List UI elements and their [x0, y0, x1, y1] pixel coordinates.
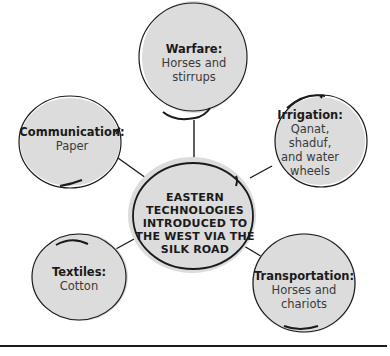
node-title: Communication:	[19, 125, 124, 139]
node-desc-line: wheels	[270, 164, 350, 178]
connector-irrigation	[250, 166, 272, 178]
node-communication: Communication: Paper	[19, 125, 124, 153]
node-desc-line: chariots	[254, 297, 354, 311]
center-line: TECHNOLOGIES	[135, 204, 255, 217]
node-desc-line: Horses and	[254, 283, 354, 297]
node-desc-line: Cotton	[52, 279, 106, 293]
center-line: THE WEST VIA THE	[135, 230, 255, 243]
node-title: Irrigation:	[270, 108, 350, 122]
connector-communication	[118, 158, 146, 178]
node-title: Warfare:	[162, 42, 227, 56]
node-title: Textiles:	[52, 265, 106, 279]
node-desc-line: stirrups	[162, 70, 227, 84]
node-title: Transportation:	[254, 269, 354, 283]
center-line: INTRODUCED TO	[135, 217, 255, 230]
connector-textiles	[114, 238, 136, 250]
center-line: EASTERN	[135, 191, 255, 204]
center-topic: EASTERN TECHNOLOGIES INTRODUCED TO THE W…	[135, 191, 255, 256]
node-transportation: Transportation: Horses and chariots	[254, 269, 354, 311]
node-desc-line: Paper	[19, 139, 124, 153]
node-desc-line: Qanat, shaduf,	[270, 122, 350, 150]
node-warfare: Warfare: Horses and stirrups	[162, 42, 227, 84]
node-desc-line: Horses and	[162, 56, 227, 70]
node-textiles: Textiles: Cotton	[52, 265, 106, 293]
node-desc-line: and water	[270, 150, 350, 164]
node-irrigation: Irrigation: Qanat, shaduf, and water whe…	[270, 108, 350, 178]
center-line: SILK ROAD	[135, 243, 255, 256]
